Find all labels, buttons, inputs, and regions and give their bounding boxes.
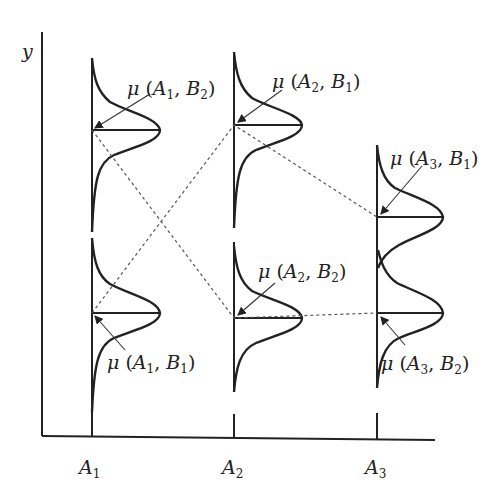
label-mu-a2-b1: μ (A2, B1) bbox=[272, 70, 360, 95]
label-mu-a1-b1: μ (A1, B1) bbox=[107, 351, 195, 376]
column-a3 bbox=[377, 145, 443, 440]
bell-curve-a1-b1 bbox=[92, 238, 160, 412]
column-a1 bbox=[92, 58, 160, 436]
column-a2 bbox=[234, 52, 302, 438]
label-mu-a3-b1: μ (A3, B1) bbox=[390, 147, 478, 172]
x-level-a2: A2 bbox=[220, 456, 243, 481]
arrow-a1-b2 bbox=[95, 94, 150, 128]
y-axis-label: y bbox=[21, 40, 33, 62]
x-level-a1: A1 bbox=[77, 456, 100, 481]
x-level-a3: A3 bbox=[363, 456, 386, 481]
label-mu-a2-b2: μ (A2, B2) bbox=[258, 260, 346, 285]
label-mu-a1-b2: μ (A1, B2) bbox=[127, 77, 215, 102]
arrow-a2-b1 bbox=[238, 90, 282, 122]
label-mu-a3-b2: μ (A3, B2) bbox=[381, 352, 469, 377]
arrow-a3-b1 bbox=[381, 166, 422, 214]
arrow-a1-b1 bbox=[95, 316, 125, 350]
interaction-diagram: y bbox=[0, 0, 496, 500]
